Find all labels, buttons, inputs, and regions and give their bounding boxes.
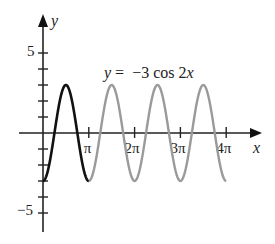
- x-ticks: π2π3π4π: [84, 127, 232, 156]
- x-tick-label: π: [84, 140, 92, 156]
- x-axis-label: x: [252, 139, 260, 156]
- y-tick-label-neg5: −5: [17, 202, 33, 218]
- y-tick-label-5: 5: [27, 43, 35, 59]
- equation-x: x: [185, 64, 193, 81]
- y-axis-arrow-icon: [38, 14, 48, 27]
- y-axis-label: y: [49, 12, 59, 30]
- equation-label: y = −3 cos 2x: [102, 64, 194, 82]
- equation-rhs: = −3 cos 2: [111, 64, 186, 81]
- x-axis-arrow-icon: [250, 128, 262, 138]
- sinusoid-graph: π2π3π4π y x 5 −5 y = −3 cos 2x: [0, 0, 275, 244]
